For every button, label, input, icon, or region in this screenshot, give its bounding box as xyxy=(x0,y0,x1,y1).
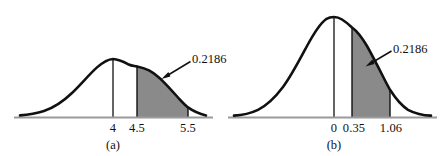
panel-caption-b: (b) xyxy=(327,139,342,152)
tick-label-b-2: 1.06 xyxy=(380,122,402,135)
tick-label-b-0: 0 xyxy=(331,122,337,135)
tick-label-b-1: 0.35 xyxy=(343,122,365,135)
panel-caption-a: (a) xyxy=(106,139,120,152)
panel-b: 0.2186 0 0.35 1.06 (b) xyxy=(224,0,448,156)
tick-label-a-1: 4.5 xyxy=(129,122,145,135)
annotation-label-a: 0.2186 xyxy=(192,53,226,66)
shaded-area-b xyxy=(352,28,390,118)
annotation-arrow-a xyxy=(162,62,191,80)
normal-distribution-figure: 0.2186 4 4.5 5.5 (a) xyxy=(0,0,448,156)
shaded-area-a xyxy=(137,67,188,117)
annotation-label-b: 0.2186 xyxy=(393,43,427,56)
tick-label-a-0: 4 xyxy=(110,122,116,135)
panel-a: 0.2186 4 4.5 5.5 (a) xyxy=(0,0,224,156)
normal-curve-b xyxy=(234,17,431,116)
tick-label-a-2: 5.5 xyxy=(180,122,196,135)
